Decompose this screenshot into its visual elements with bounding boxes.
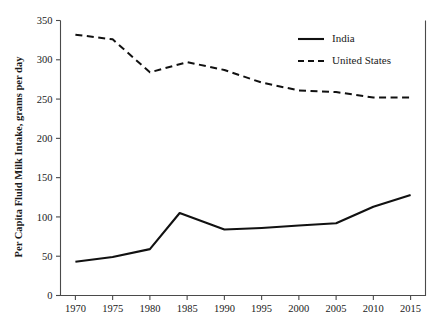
x-tick-label: 1975 — [102, 303, 123, 314]
y-axis-ticks: 050100150200250300350 — [37, 15, 61, 301]
x-tick-label: 1980 — [139, 303, 160, 314]
legend-label-india: India — [332, 32, 355, 44]
x-tick-label: 1995 — [251, 303, 272, 314]
x-tick-label: 1985 — [177, 303, 198, 314]
x-axis-ticks: 1970197519801985199019952000200520102015 — [65, 296, 421, 314]
y-tick-label: 150 — [37, 172, 53, 183]
y-tick-label: 250 — [37, 94, 53, 105]
x-tick-label: 1990 — [214, 303, 235, 314]
y-tick-label: 300 — [37, 54, 53, 65]
series-line-india — [75, 195, 410, 262]
y-tick-label: 200 — [37, 133, 53, 144]
y-tick-label: 0 — [47, 290, 52, 301]
y-tick-label: 350 — [37, 15, 53, 26]
x-tick-label: 2010 — [363, 303, 384, 314]
y-tick-label: 50 — [42, 251, 53, 262]
chart-legend: IndiaUnited States — [298, 32, 391, 66]
x-tick-label: 2015 — [400, 303, 421, 314]
series-line-united-states — [75, 35, 410, 98]
y-tick-label: 100 — [37, 212, 53, 223]
data-series-group — [75, 35, 410, 262]
chart-canvas: Per Capita Fluid Milk Intake, grams per … — [0, 0, 446, 331]
y-axis-title-group: Per Capita Fluid Milk Intake, grams per … — [13, 56, 24, 258]
y-axis-title: Per Capita Fluid Milk Intake, grams per … — [13, 56, 24, 258]
x-tick-label: 2000 — [288, 303, 309, 314]
line-chart: Per Capita Fluid Milk Intake, grams per … — [0, 0, 446, 331]
x-tick-label: 2005 — [326, 303, 347, 314]
x-tick-label: 1970 — [65, 303, 86, 314]
legend-label-united-states: United States — [332, 54, 391, 66]
